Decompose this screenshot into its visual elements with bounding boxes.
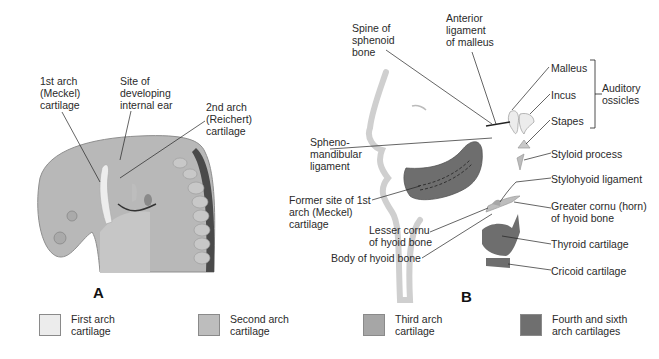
label-lesser-cornu-hyoid: Lesser cornu of hyoid bone xyxy=(369,224,432,248)
legend-swatch-fourth-sixth-arch xyxy=(520,314,542,336)
label-second-arch-cartilage: 2nd arch (Reichert) cartilage xyxy=(206,101,252,137)
label-stapes: Stapes xyxy=(551,115,584,127)
panel-letter-b: B xyxy=(461,288,472,305)
label-sphenomandibular-ligament: Spheno- mandibular ligament xyxy=(310,136,362,172)
legend-item-fourth-sixth-arch: Fourth and sixth arch cartilages xyxy=(520,313,627,337)
embryo-illustration xyxy=(38,111,215,272)
label-incus: Incus xyxy=(551,89,576,101)
legend-label: Fourth and sixth arch cartilages xyxy=(552,313,627,337)
label-cricoid-cartilage: Cricoid cartilage xyxy=(551,265,626,277)
legend-label: Third arch cartilage xyxy=(395,313,442,337)
legend-label: First arch cartilage xyxy=(71,313,115,337)
legend-item-third-arch: Third arch cartilage xyxy=(363,313,442,337)
label-stylohyoid-ligament: Stylohyoid ligament xyxy=(551,173,642,185)
label-developing-internal-ear: Site of developing internal ear xyxy=(120,75,173,111)
label-styloid-process: Styloid process xyxy=(551,148,622,160)
label-greater-cornu-hyoid: Greater cornu (horn) of hyoid bone xyxy=(551,200,647,224)
label-body-of-hyoid: Body of hyoid bone xyxy=(331,252,421,264)
legend-swatch-first-arch xyxy=(39,314,61,336)
label-malleus: Malleus xyxy=(551,62,587,74)
legend-swatch-second-arch xyxy=(198,314,220,336)
label-auditory-ossicles: Auditory ossicles xyxy=(602,82,641,106)
legend-item-first-arch: First arch cartilage xyxy=(39,313,115,337)
label-thyroid-cartilage: Thyroid cartilage xyxy=(551,238,629,250)
label-spine-of-sphenoid: Spine of sphenoid bone xyxy=(352,22,395,58)
label-former-meckel-site: Former site of 1st arch (Meckel) cartila… xyxy=(289,194,371,230)
label-first-arch-cartilage: 1st arch (Meckel) cartilage xyxy=(40,75,80,111)
legend-item-second-arch: Second arch cartilage xyxy=(198,313,289,337)
label-anterior-ligament-malleus: Anterior ligament of malleus xyxy=(446,12,494,48)
legend-label: Second arch cartilage xyxy=(230,313,289,337)
legend-swatch-third-arch xyxy=(363,314,385,336)
panel-letter-a: A xyxy=(93,284,104,301)
